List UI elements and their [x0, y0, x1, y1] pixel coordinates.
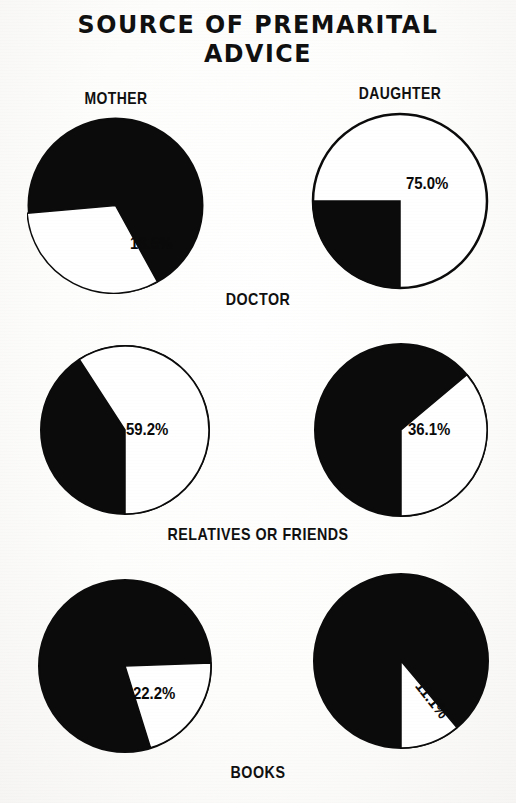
slice-label-mother-relatives: 59.2% — [126, 420, 168, 440]
pie-chart-daughter-relatives: 36.1% — [313, 342, 489, 518]
pie-chart-mother-books: 22.2% — [37, 578, 213, 754]
slice-label-mother-doctor: 18.5% — [130, 234, 172, 254]
pie-chart-daughter-doctor: 75.0% — [311, 112, 489, 290]
pie-svg-mother-books — [37, 578, 213, 754]
pie-slice-other — [313, 201, 400, 288]
row-label-doctor: DOCTOR — [41, 290, 474, 310]
row-label-relatives: RELATIVES OR FRIENDS — [41, 525, 474, 545]
column-header-daughter: DAUGHTER — [305, 84, 495, 104]
row-label-books: BOOKS — [41, 763, 474, 783]
pie-chart-mother-doctor: 18.5% — [27, 117, 204, 294]
slice-label-mother-books: 22.2% — [133, 684, 175, 704]
pie-svg-daughter-doctor — [311, 112, 489, 290]
slice-label-daughter-relatives: 36.1% — [408, 420, 450, 440]
column-header-mother: MOTHER — [21, 89, 211, 109]
figure-canvas: SOURCE OF PREMARITAL ADVICE MOTHER DAUGH… — [0, 0, 516, 803]
figure-title: SOURCE OF PREMARITAL ADVICE — [0, 10, 516, 68]
pie-svg-daughter-relatives — [313, 342, 489, 518]
slice-label-daughter-doctor: 75.0% — [406, 174, 448, 194]
title-line-1: SOURCE OF PREMARITAL — [13, 10, 503, 39]
pie-chart-mother-relatives: 59.2% — [39, 344, 211, 516]
pie-chart-daughter-books: 11.1% — [312, 572, 490, 750]
pie-svg-mother-doctor — [27, 117, 204, 294]
title-line-2: ADVICE — [13, 39, 503, 68]
pie-svg-daughter-books — [312, 572, 490, 750]
